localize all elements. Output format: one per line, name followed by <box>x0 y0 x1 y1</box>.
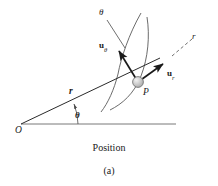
polar-coordinates-diagram <box>0 0 218 186</box>
radial-axis-extension <box>172 39 192 56</box>
u-r-subscript: r <box>172 74 175 81</box>
u-theta-label: uθ <box>99 41 107 52</box>
figure-container: θ uθ r ur r P θ O Position (a) <box>0 0 218 186</box>
r-axis-label: r <box>192 32 196 41</box>
theta-angle-label: θ <box>75 111 80 120</box>
origin-label: O <box>15 126 22 136</box>
u-r-label: ur <box>167 69 175 80</box>
r-vector-label: r <box>69 87 73 97</box>
subfigure-label: (a) <box>0 166 218 176</box>
point-p-label: P <box>143 88 149 98</box>
figure-caption: Position <box>0 143 218 153</box>
theta-axis-leader-line <box>107 20 125 48</box>
trajectory-curve <box>101 13 141 112</box>
u-theta-subscript: θ <box>104 46 107 53</box>
particle-marker <box>133 77 144 88</box>
radial-axis-line <box>21 58 160 124</box>
theta-axis-label: θ <box>99 8 103 17</box>
